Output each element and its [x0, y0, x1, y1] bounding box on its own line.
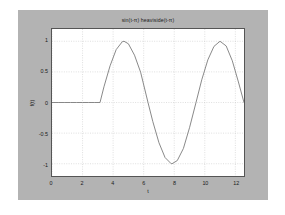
- y-tick-label: 0: [45, 100, 48, 106]
- x-tick-label: 0: [50, 180, 53, 186]
- chart-title: sin(t-π) heaviside(t-π): [51, 17, 245, 23]
- plot-area: [51, 28, 245, 177]
- y-axis-label: f(t): [29, 99, 35, 106]
- data-series-group: [52, 41, 244, 163]
- x-tick-label: 8: [173, 180, 176, 186]
- y-tick-label: 0.5: [41, 68, 49, 74]
- y-tick-label: -0.5: [39, 131, 48, 137]
- x-tick-label: 4: [111, 180, 114, 186]
- x-tick-label: 10: [202, 180, 208, 186]
- y-tick-label: 1: [45, 37, 48, 43]
- x-tick-label: 6: [142, 180, 145, 186]
- x-axis-label: t: [147, 188, 149, 194]
- x-tick-label: 12: [233, 180, 239, 186]
- y-tick-label: -1: [43, 162, 48, 168]
- figure-panel: sin(t-π) heaviside(t-π) 10.50-0.5-1 0246…: [18, 10, 268, 200]
- axes-container: sin(t-π) heaviside(t-π) 10.50-0.5-1 0246…: [51, 28, 245, 177]
- plot-svg: [52, 29, 244, 176]
- x-tick-label: 2: [80, 180, 83, 186]
